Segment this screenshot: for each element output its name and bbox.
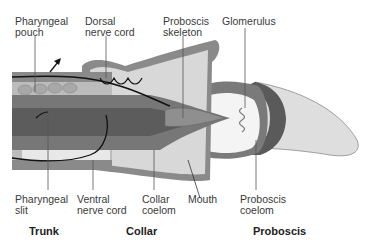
label-proboscis-skeleton: Proboscis skeleton <box>163 16 209 38</box>
label-pharyngeal-slit: Pharyngeal slit <box>15 194 68 216</box>
label-proboscis-coelom: Proboscis coelom <box>240 194 286 216</box>
region-label-trunk: Trunk <box>29 225 59 237</box>
label-collar-coelom: Collar coelom <box>142 194 176 216</box>
trunk-ventral-wall <box>12 160 112 170</box>
region-label-proboscis: Proboscis <box>253 225 306 237</box>
label-pharyngeal-pouch: Pharyngeal pouch <box>15 16 68 38</box>
label-ventral-nerve-cord: Ventral nerve cord <box>77 194 127 216</box>
label-glomerulus: Glomerulus <box>222 16 276 27</box>
water-flow-arrow <box>50 62 58 72</box>
label-mouth: Mouth <box>188 194 217 205</box>
arrow-head-icon <box>54 58 61 65</box>
region-label-collar: Collar <box>126 225 157 237</box>
label-dorsal-nerve-cord: Dorsal nerve cord <box>85 16 135 38</box>
